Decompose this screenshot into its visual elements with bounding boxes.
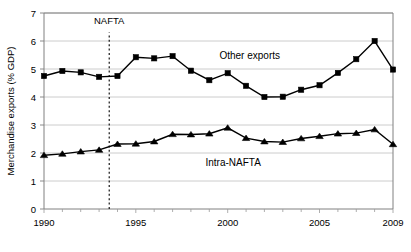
- series-label-intra-nafta: Intra-NAFTA: [205, 157, 261, 168]
- x-axis-minor-ticks: [44, 209, 393, 213]
- data-point-marker-square: [207, 78, 212, 83]
- y-tick-label: 6: [31, 36, 36, 47]
- plot-background: [44, 13, 393, 209]
- y-axis-ticks: [40, 13, 44, 209]
- y-tick-label: 1: [31, 176, 36, 187]
- data-point-marker-square: [188, 68, 193, 73]
- x-tick-label: 2005: [309, 217, 330, 228]
- data-point-marker-square: [390, 67, 395, 72]
- data-point-marker-square: [133, 55, 138, 60]
- y-axis-title: Merchandise exports (% GDP): [5, 47, 16, 176]
- y-axis-tick-labels: 7 6 5 4 3 2 1 0: [31, 8, 36, 215]
- merchandise-exports-line-chart: 7 6 5 4 3 2 1 0 Merchandise exports (% G…: [0, 0, 411, 252]
- data-point-marker-square: [152, 56, 157, 61]
- data-point-marker-square: [60, 68, 65, 73]
- nafta-annotation-label: NAFTA: [94, 15, 125, 26]
- y-tick-label: 2: [31, 148, 36, 159]
- y-tick-label: 4: [31, 92, 36, 103]
- x-axis-tick-labels: 1990 1995 2000 2005 2009: [33, 217, 403, 228]
- data-point-marker-square: [299, 87, 304, 92]
- y-tick-label: 3: [31, 120, 36, 131]
- data-point-marker-square: [115, 73, 120, 78]
- data-point-marker-square: [335, 70, 340, 75]
- data-point-marker-square: [262, 94, 267, 99]
- y-tick-label: 5: [31, 64, 36, 75]
- x-tick-label: 2009: [382, 217, 403, 228]
- data-point-marker-square: [170, 54, 175, 59]
- data-point-marker-square: [78, 70, 83, 75]
- data-point-marker-square: [372, 38, 377, 43]
- chart-figure: 7 6 5 4 3 2 1 0 Merchandise exports (% G…: [0, 0, 411, 252]
- data-point-marker-square: [354, 57, 359, 62]
- y-tick-label: 0: [31, 204, 36, 215]
- data-point-marker-square: [317, 83, 322, 88]
- data-point-marker-square: [41, 73, 46, 78]
- series-label-other-exports: Other exports: [219, 50, 280, 61]
- data-point-marker-square: [97, 74, 102, 79]
- x-tick-label: 2000: [217, 217, 238, 228]
- x-tick-label: 1990: [33, 217, 54, 228]
- y-tick-label: 7: [31, 8, 36, 19]
- data-point-marker-square: [280, 94, 285, 99]
- x-tick-label: 1995: [125, 217, 146, 228]
- data-point-marker-square: [243, 83, 248, 88]
- data-point-marker-square: [225, 71, 230, 76]
